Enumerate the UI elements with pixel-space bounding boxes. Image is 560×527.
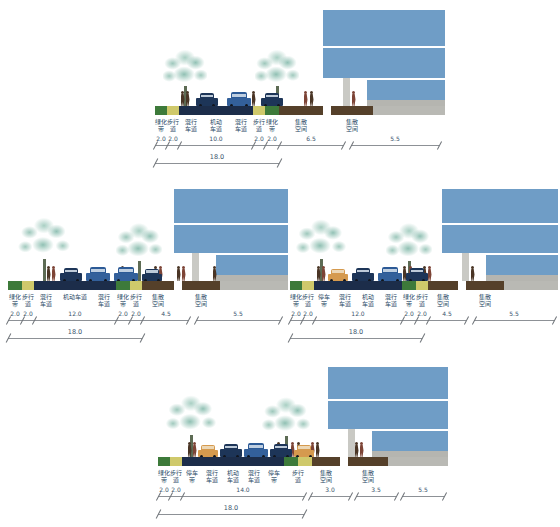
dimension-value: 2.0 bbox=[131, 310, 141, 317]
vehicle-car bbox=[244, 443, 268, 457]
dimension-tick bbox=[140, 333, 146, 342]
total-width-dimension: 18.0 bbox=[155, 154, 281, 168]
dimension-value: 2.0 bbox=[10, 310, 20, 317]
zone-strip-plaza bbox=[182, 281, 220, 290]
dimension-value: 2.0 bbox=[159, 486, 169, 493]
zone-label: 集散 空间 bbox=[312, 469, 340, 483]
dimension-value: 4.5 bbox=[442, 310, 452, 317]
zone-strip-road bbox=[334, 281, 356, 290]
glass-band-upper bbox=[442, 189, 558, 223]
pedestrian-figure bbox=[351, 91, 356, 106]
zone-strip-road bbox=[380, 281, 402, 290]
pedestrian-figure bbox=[212, 266, 217, 281]
zone-label bbox=[340, 469, 348, 483]
vehicle-bus bbox=[60, 268, 82, 281]
vehicle-parked-car bbox=[198, 445, 218, 457]
street-section-mid-left: 绿化 带 步行 道 混行 车道 机动车道 混行 车道 绿化 带 步行 道 集散 … bbox=[8, 190, 288, 340]
zone-strip-green bbox=[402, 281, 416, 290]
zone-strip-road bbox=[229, 106, 253, 115]
zone-label: 集散 空间 bbox=[428, 293, 458, 307]
zone-strip-road bbox=[92, 281, 116, 290]
zone-strip-sidewalk bbox=[298, 457, 312, 466]
dimension-value: 10.0 bbox=[209, 135, 222, 142]
zone-label: 步行 道 bbox=[22, 293, 34, 307]
zone-label: 混行 车道 bbox=[229, 118, 253, 132]
zone-label: 绿化 带 bbox=[290, 293, 302, 307]
dimension-row: 2.0 2.0 14.0 3.0 3.5 5.5 bbox=[158, 487, 448, 503]
zone-label: 集散 空间 bbox=[182, 293, 220, 307]
zone-strip-road bbox=[203, 106, 229, 115]
zone-label: 混行 车道 bbox=[334, 293, 356, 307]
zone-strip-plaza bbox=[142, 281, 174, 290]
dimension-row: 2.0 2.0 12.0 2.0 2.0 4.5 5.5 bbox=[290, 311, 558, 327]
zone-label: 停车 带 bbox=[264, 469, 284, 483]
total-width-dimension: 18.0 bbox=[158, 505, 306, 519]
building-facade bbox=[323, 10, 445, 106]
vehicle-bus bbox=[352, 268, 374, 281]
zone-strip-plaza bbox=[331, 106, 373, 115]
ground-strips bbox=[158, 457, 448, 466]
zone-strip-parking bbox=[314, 281, 334, 290]
zone-strip-road bbox=[202, 457, 222, 466]
zone-strip-sidewalk bbox=[416, 281, 428, 290]
zone-strip-road bbox=[34, 281, 58, 290]
zone-label: 集散 空间 bbox=[466, 293, 504, 307]
dimension-tick bbox=[437, 141, 442, 149]
dimension-tick bbox=[278, 316, 283, 324]
dimension-line bbox=[158, 496, 304, 497]
dimension-value: 12.0 bbox=[351, 310, 364, 317]
zone-strip-gap bbox=[458, 281, 466, 290]
zone-label: 混行 车道 bbox=[92, 293, 116, 307]
dimension-value: 2.0 bbox=[168, 135, 178, 142]
vehicle-bus bbox=[196, 93, 218, 106]
zone-label-row: 绿化 带 步行 道 停车 带 混行 车道 机动 车道 混行 车道 绿化 带 步行… bbox=[290, 293, 558, 307]
dimension-value: 2.0 bbox=[254, 135, 264, 142]
total-width-dimension: 18.0 bbox=[8, 329, 144, 343]
glass-band-lower bbox=[486, 255, 558, 275]
zone-strip-gap bbox=[174, 281, 182, 290]
vehicle-bus bbox=[406, 268, 428, 281]
dimension-tick bbox=[552, 316, 557, 324]
building-column bbox=[462, 253, 469, 281]
dimension-value: 4.5 bbox=[161, 310, 171, 317]
dimension-line bbox=[356, 496, 396, 497]
zone-label: 绿化 带 bbox=[155, 118, 167, 132]
zone-label: 机动车道 bbox=[58, 293, 92, 307]
zone-strip-road bbox=[244, 457, 264, 466]
glass-band-lower bbox=[372, 431, 448, 451]
zone-strip-road bbox=[58, 281, 92, 290]
zone-strip-green bbox=[284, 457, 298, 466]
vehicle-parked-car bbox=[294, 445, 314, 457]
section-scene bbox=[158, 368, 448, 466]
zone-label: 集散 空间 bbox=[279, 118, 323, 132]
dimension-value: 2.0 bbox=[156, 135, 166, 142]
dimension-value: 2.0 bbox=[171, 486, 181, 493]
dimension-line bbox=[290, 320, 466, 321]
vehicle-bus bbox=[142, 269, 162, 281]
glass-band-upper bbox=[174, 189, 288, 223]
dimension-tick bbox=[348, 492, 353, 500]
building-facade bbox=[442, 189, 558, 281]
zone-strip-plaza bbox=[348, 457, 388, 466]
dimension-value: 3.5 bbox=[371, 486, 381, 493]
zone-label: 混行 车道 bbox=[34, 293, 58, 307]
zone-label: 步行 道 bbox=[284, 469, 312, 483]
dimension-value: 2.0 bbox=[404, 310, 414, 317]
zone-label: 绿化 带 bbox=[265, 118, 279, 132]
zone-label: 步行 道 bbox=[253, 118, 265, 132]
dimension-value: 2.0 bbox=[23, 310, 33, 317]
zone-strip-road bbox=[179, 106, 203, 115]
dimension-line bbox=[402, 496, 444, 497]
zone-label: 混行 车道 bbox=[179, 118, 203, 132]
zone-label: 步行 道 bbox=[130, 293, 142, 307]
zone-strip-plaza bbox=[466, 281, 504, 290]
zone-label: 机动 车道 bbox=[203, 118, 229, 132]
dimension-line bbox=[155, 145, 343, 146]
zone-strip-pavement bbox=[373, 106, 445, 115]
zone-label: 集散 空间 bbox=[331, 118, 373, 132]
dimension-line bbox=[474, 320, 554, 321]
zone-strip-plaza bbox=[428, 281, 458, 290]
dimension-tick bbox=[302, 509, 308, 518]
vehicle-car bbox=[114, 267, 138, 281]
pedestrian-figure bbox=[303, 91, 308, 106]
